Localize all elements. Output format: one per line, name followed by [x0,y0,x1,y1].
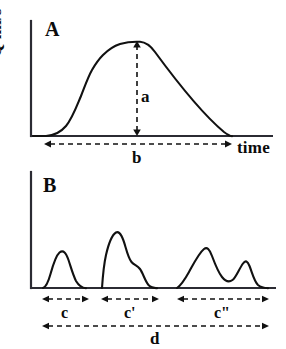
uroflowmetry-figure: A Q ml/s time a b B c c' c" d [0,0,286,349]
measure-c-label: c [61,305,68,321]
measure-c-prime-arrowhead-right [152,296,159,302]
measure-d-arrowhead-right [262,323,269,329]
measure-c-dprime-arrowhead-left [177,296,184,302]
measure-c-prime-label: c' [124,305,136,321]
measure-d-label: d [150,330,159,347]
panel-a-group [31,21,272,147]
measure-b-arrowhead-right [225,141,232,148]
panel-a-letter: A [45,19,60,39]
panel-a-x-axis-title: time [237,139,270,156]
panel-b-void-3-curve [177,248,268,288]
panel-a-y-axis-title: Q ml/s [0,8,4,57]
measure-d-arrowhead-left [42,323,49,329]
panel-b-letter: B [43,175,57,195]
measure-c-prime-arrowhead-left [101,296,108,302]
measure-b-arrowhead-left [44,141,51,148]
measure-c-arrowhead-left [42,296,49,302]
measure-c-arrowhead-right [82,296,89,302]
measure-c-dprime-label: c" [214,305,230,321]
panel-b-void-1-curve [43,251,86,288]
panel-a-flow-curve [33,42,232,136]
measure-a-label: a [141,88,150,105]
measure-b-label: b [132,149,141,166]
measure-c-dprime-arrowhead-right [262,296,269,302]
panel-b-void-2-curve [102,232,157,288]
